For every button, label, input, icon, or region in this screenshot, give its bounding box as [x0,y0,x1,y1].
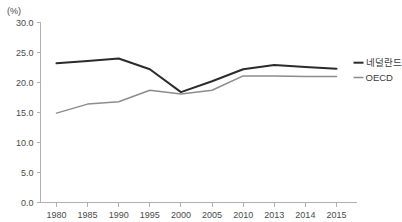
y-tick-label: 30.0 [16,18,34,28]
y-tick-label: 10.0 [16,138,34,148]
y-tick-label: 20.0 [16,78,34,88]
x-tick-label: 2013 [264,210,284,220]
y-tick-label: 25.0 [16,48,34,58]
legend-label-netherlands: 네덜란드 [366,57,402,68]
plot-area: 30.025.020.015.010.05.00.0 1980198519901… [0,0,402,222]
line-chart: (%) 30.025.020.015.010.05.00.0 198019851… [0,0,402,222]
series-line-netherlands [57,59,337,93]
y-tick-label: 15.0 [16,108,34,118]
legend-label-oecd: OECD [366,72,394,83]
y-tick-label: 0.0 [21,198,34,208]
x-tick-label: 2014 [295,210,315,220]
x-tick-label: 1980 [46,210,66,220]
x-tick-label: 1985 [78,210,98,220]
x-tick-label: 2015 [326,210,346,220]
series-line-oecd [57,76,337,113]
x-axis-tick-group: 1980198519901995200020052010201320142015 [46,203,346,220]
x-tick-label: 1995 [140,210,160,220]
x-tick-label: 2000 [171,210,191,220]
legend-group: 네덜란드OECD [354,57,402,83]
x-tick-label: 2005 [202,210,222,220]
y-axis-tick-group: 30.025.020.015.010.05.00.0 [16,18,41,208]
x-tick-label: 2010 [233,210,253,220]
y-tick-label: 5.0 [21,168,34,178]
series-lines-group [57,59,337,114]
x-tick-label: 1990 [109,210,129,220]
